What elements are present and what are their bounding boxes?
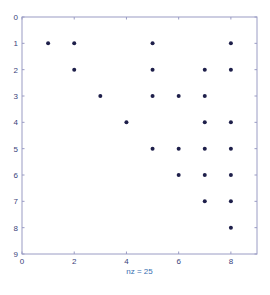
x-tick-label: 0 — [20, 257, 25, 266]
axes-frame — [22, 17, 257, 254]
x-axis-ticks: 02468 — [20, 17, 234, 266]
data-point — [229, 147, 233, 151]
data-markers — [46, 41, 233, 229]
data-point — [203, 68, 207, 72]
data-point — [229, 41, 233, 45]
y-tick-label: 5 — [14, 145, 19, 154]
data-point — [203, 94, 207, 98]
data-point — [151, 94, 155, 98]
y-tick-label: 2 — [14, 66, 19, 75]
data-point — [203, 173, 207, 177]
x-tick-label: 8 — [229, 257, 234, 266]
data-point — [229, 120, 233, 124]
data-point — [229, 226, 233, 230]
x-tick-label: 4 — [124, 257, 129, 266]
y-tick-label: 3 — [14, 92, 19, 101]
data-point — [229, 173, 233, 177]
data-point — [46, 41, 50, 45]
spy-plot-figure: 02468 0123456789 nz = 25 — [0, 0, 270, 295]
y-tick-label: 4 — [14, 118, 19, 127]
data-point — [72, 68, 76, 72]
x-axis-label: nz = 25 — [126, 267, 153, 276]
data-point — [98, 94, 102, 98]
axes-box — [22, 17, 257, 254]
data-point — [124, 120, 128, 124]
y-tick-label: 0 — [14, 13, 19, 22]
data-point — [177, 173, 181, 177]
data-point — [151, 147, 155, 151]
y-tick-label: 6 — [14, 171, 19, 180]
y-tick-label: 8 — [14, 224, 19, 233]
data-point — [72, 41, 76, 45]
y-axis-ticks: 0123456789 — [14, 13, 257, 259]
data-point — [203, 199, 207, 203]
y-tick-label: 9 — [14, 250, 19, 259]
spy-plot: 02468 0123456789 nz = 25 — [0, 0, 270, 295]
data-point — [177, 147, 181, 151]
data-point — [229, 68, 233, 72]
y-tick-label: 7 — [14, 197, 19, 206]
data-point — [203, 147, 207, 151]
x-tick-label: 2 — [72, 257, 77, 266]
data-point — [229, 199, 233, 203]
data-point — [151, 41, 155, 45]
x-tick-label: 6 — [176, 257, 181, 266]
data-point — [177, 94, 181, 98]
data-point — [203, 120, 207, 124]
data-point — [151, 68, 155, 72]
y-tick-label: 1 — [14, 39, 19, 48]
